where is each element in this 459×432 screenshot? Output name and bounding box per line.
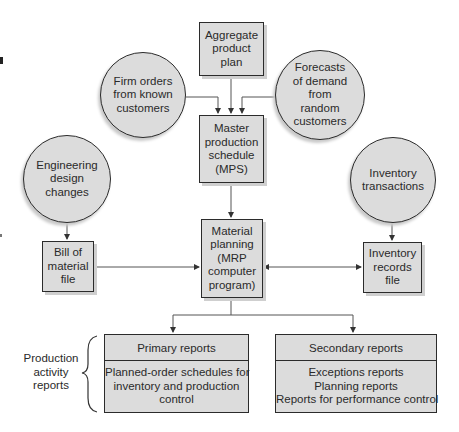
cropped-text-fragment	[0, 234, 2, 237]
bill-of-material-file-box: Bill of material file	[42, 241, 94, 292]
secondary-reports-box: Secondary reports Exceptions reports Pla…	[275, 334, 437, 413]
primary-reports-list: Planned-order schedules for inventory an…	[105, 361, 248, 407]
firm-orders-circle: Firm orders from known customers	[100, 52, 186, 138]
engineering-design-changes-circle: Engineering design changes	[23, 135, 111, 223]
inventory-transactions-circle: Inventory transactions	[350, 137, 436, 223]
production-activity-reports-label: Production activity reports	[20, 352, 82, 393]
report-item: Reports for performance control	[276, 393, 436, 407]
report-item: Planned-order schedules for	[105, 366, 248, 380]
primary-reports-box: Primary reports Planned-order schedules …	[104, 334, 249, 413]
aggregate-product-plan-box: Aggregate product plan	[199, 22, 264, 76]
report-item: control	[105, 393, 248, 407]
material-planning-mrp-box: Material planning (MRP computer program)	[201, 219, 263, 298]
secondary-reports-list: Exceptions reports Planning reports Repo…	[276, 361, 436, 407]
report-item: Planning reports	[276, 380, 436, 394]
cropped-text-fragment	[0, 57, 3, 64]
master-production-schedule-box: Master production schedule (MPS)	[199, 115, 264, 183]
inventory-records-file-box: Inventory records file	[363, 242, 422, 293]
report-item: inventory and production	[105, 380, 248, 394]
secondary-reports-title: Secondary reports	[276, 335, 436, 361]
report-item: Exceptions reports	[276, 366, 436, 380]
primary-reports-title: Primary reports	[105, 335, 248, 361]
forecasts-circle: Forecasts of demand from random customer…	[275, 50, 365, 140]
